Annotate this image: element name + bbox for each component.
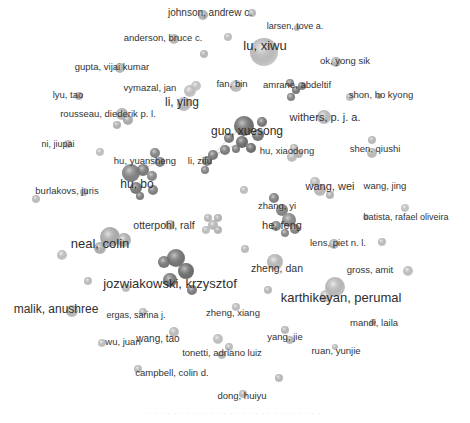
author-label[interactable]: zheng, xiang — [206, 308, 260, 318]
author-label[interactable]: batista, rafael oliveira — [363, 213, 448, 222]
author-label[interactable]: amrane, abdeltif — [263, 80, 331, 90]
node-highlight — [200, 50, 208, 58]
author-label[interactable]: hu, xiaodong — [260, 146, 314, 156]
author-label[interactable]: ergas, sarina j. — [106, 311, 165, 320]
author-label[interactable]: gupta, vijai kumar — [75, 62, 149, 72]
node-highlight — [57, 250, 67, 260]
author-label[interactable]: zheng, dan — [251, 263, 303, 274]
author-label[interactable]: wang, tao — [136, 334, 179, 344]
author-label[interactable]: ruan, yunjie — [311, 346, 360, 356]
author-label[interactable]: anderson, bruce c. — [124, 33, 203, 43]
node-highlight — [264, 286, 272, 294]
node-highlight — [241, 245, 249, 253]
author-label[interactable]: zhang, yi — [258, 201, 296, 211]
faded-caption: · · · · · · · · · · · · · · · · · · · · … — [0, 410, 470, 417]
author-label[interactable]: wang, jing — [364, 181, 407, 191]
node-highlight — [136, 192, 144, 200]
node-highlight — [224, 33, 232, 41]
author-label[interactable]: li, zifu — [188, 156, 212, 166]
author-label[interactable]: neal, colin — [71, 237, 130, 250]
author-label[interactable]: ok, yong sik — [320, 56, 370, 66]
author-label[interactable]: he, feng — [262, 220, 302, 231]
node-highlight — [275, 374, 283, 382]
node-highlight — [403, 266, 413, 276]
node-highlight — [240, 186, 248, 194]
author-label[interactable]: campbell, colin d. — [135, 368, 208, 378]
node-highlight — [287, 93, 295, 101]
author-label[interactable]: tonetti, adriano luiz — [182, 348, 262, 358]
author-label[interactable]: withers, p. j. a. — [290, 112, 361, 123]
node-highlight — [378, 238, 386, 246]
author-label[interactable]: gross, amit — [347, 265, 393, 275]
node-highlight — [326, 191, 334, 199]
node-highlight — [214, 226, 222, 234]
author-label[interactable]: wang, wei — [306, 181, 355, 192]
author-label[interactable]: otterpohl, ralf — [133, 220, 194, 231]
author-label[interactable]: wu, juan — [105, 337, 140, 347]
node-highlight — [232, 145, 240, 153]
author-label[interactable]: guo, xuesong — [211, 125, 283, 137]
author-label[interactable]: malik, anushree — [14, 303, 99, 315]
author-label[interactable]: karthikeyan, perumal — [281, 291, 402, 304]
author-label[interactable]: johnson, andrew c. — [168, 8, 252, 18]
node-highlight — [220, 145, 230, 155]
author-label[interactable]: ni, jiupai — [41, 140, 74, 149]
node-highlight — [158, 256, 170, 268]
node-highlight — [201, 166, 209, 174]
author-label[interactable]: jozwiakowski, krzysztof — [103, 277, 237, 290]
author-label[interactable]: li, ying — [165, 96, 199, 108]
author-label[interactable]: rousseau, diederik p. l. — [60, 109, 156, 119]
node-highlight — [96, 148, 104, 156]
author-label[interactable]: hu, yuansheng — [114, 156, 176, 166]
author-label[interactable]: lens, piet n. l. — [310, 238, 366, 248]
node-highlight — [113, 121, 121, 129]
node-highlight — [191, 81, 201, 91]
node-highlight — [246, 143, 256, 153]
node-highlight — [202, 226, 210, 234]
author-label[interactable]: fan, bin — [216, 79, 247, 89]
author-label[interactable]: hu, bo — [120, 178, 153, 190]
node-highlight — [84, 277, 92, 285]
author-label[interactable]: dong, huiyu — [217, 391, 266, 401]
author-label[interactable]: shen, qiushi — [350, 144, 401, 154]
author-label[interactable]: lyu, tao — [53, 90, 84, 100]
author-label[interactable]: larsen, tove a. — [267, 22, 324, 31]
author-label[interactable]: burlakovs, juris — [35, 186, 98, 196]
author-label[interactable]: mandi, laila — [350, 318, 398, 328]
author-label[interactable]: vymazal, jan — [124, 83, 177, 93]
author-label[interactable]: lu, xiwu — [243, 39, 286, 52]
author-label[interactable]: yang, jie — [267, 332, 302, 342]
node-highlight — [213, 334, 223, 344]
author-label[interactable]: shon, ho kyong — [349, 90, 413, 100]
